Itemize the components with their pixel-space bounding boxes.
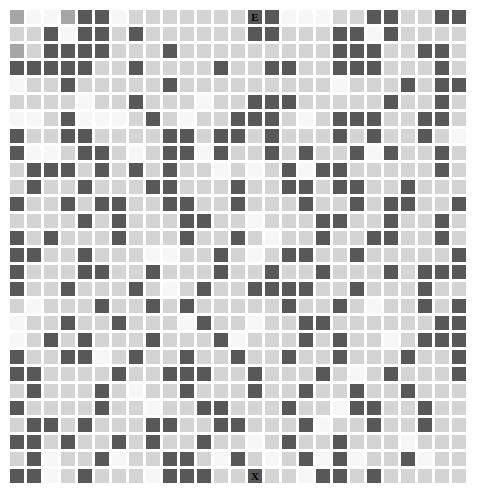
maze-cell	[163, 27, 177, 41]
maze-cell	[299, 282, 313, 296]
maze-cell	[367, 112, 381, 126]
maze-cell	[435, 78, 449, 92]
maze-cell	[214, 61, 228, 75]
maze-cell	[44, 112, 58, 126]
maze-cell	[401, 435, 415, 449]
maze-cell	[384, 367, 398, 381]
maze-cell	[180, 61, 194, 75]
maze-cell	[61, 350, 75, 364]
maze-cell	[367, 78, 381, 92]
maze-cell	[44, 316, 58, 330]
maze-cell	[418, 384, 432, 398]
maze-cell	[231, 333, 245, 347]
maze-cell	[78, 367, 92, 381]
maze-cell	[214, 265, 228, 279]
maze-cell	[129, 367, 143, 381]
maze-cell	[333, 435, 347, 449]
maze-cell	[95, 129, 109, 143]
maze-cell	[435, 350, 449, 364]
maze-cell	[78, 95, 92, 109]
maze-cell	[248, 384, 262, 398]
maze-cell	[27, 197, 41, 211]
maze-cell	[95, 452, 109, 466]
maze-cell	[384, 299, 398, 313]
maze-cell	[418, 78, 432, 92]
maze-cell	[231, 418, 245, 432]
maze-cell	[61, 418, 75, 432]
maze-cell	[163, 418, 177, 432]
maze-cell	[27, 10, 41, 24]
maze-cell	[418, 214, 432, 228]
maze-cell	[418, 401, 432, 415]
maze-cell	[146, 299, 160, 313]
maze-cell	[401, 112, 415, 126]
maze-cell	[435, 452, 449, 466]
maze-cell	[452, 401, 466, 415]
maze-cell	[435, 367, 449, 381]
maze-cell	[197, 350, 211, 364]
maze-cell	[95, 350, 109, 364]
maze-cell	[95, 231, 109, 245]
maze-cell	[299, 350, 313, 364]
maze-cell	[435, 418, 449, 432]
maze-cell	[316, 10, 330, 24]
maze-cell	[61, 265, 75, 279]
maze-cell-exit[interactable]: X	[248, 469, 262, 483]
maze-cell	[10, 44, 24, 58]
maze-cell	[95, 469, 109, 483]
maze-cell	[163, 197, 177, 211]
maze-cell	[316, 367, 330, 381]
maze-cell	[27, 248, 41, 262]
maze-cell	[112, 350, 126, 364]
maze-cell	[112, 180, 126, 194]
maze-cell	[129, 248, 143, 262]
maze-cell	[265, 78, 279, 92]
maze-cell	[95, 61, 109, 75]
maze-cell	[384, 452, 398, 466]
maze-cell	[384, 435, 398, 449]
maze-cell	[435, 44, 449, 58]
maze-cell	[282, 231, 296, 245]
maze-cell	[299, 248, 313, 262]
maze-cell	[27, 44, 41, 58]
maze-cell	[197, 316, 211, 330]
maze-cell	[61, 112, 75, 126]
maze-cell	[180, 112, 194, 126]
maze-cell	[44, 44, 58, 58]
maze-cell	[316, 129, 330, 143]
maze-cell	[61, 316, 75, 330]
maze-cell	[367, 367, 381, 381]
maze-cell-entrance[interactable]: E	[248, 10, 262, 24]
maze-cell	[367, 350, 381, 364]
maze-cell	[163, 350, 177, 364]
maze-cell	[27, 452, 41, 466]
maze-cell	[418, 197, 432, 211]
maze-cell	[299, 418, 313, 432]
maze-cell	[452, 78, 466, 92]
maze-cell	[146, 163, 160, 177]
maze-cell	[401, 163, 415, 177]
maze-cell	[282, 95, 296, 109]
maze-cell	[231, 435, 245, 449]
maze-cell	[78, 384, 92, 398]
maze-cell	[129, 214, 143, 228]
maze-cell	[350, 384, 364, 398]
maze-cell	[197, 197, 211, 211]
maze-cell	[418, 61, 432, 75]
maze-cell	[146, 10, 160, 24]
maze-cell	[95, 316, 109, 330]
maze-cell	[61, 197, 75, 211]
maze-cell	[248, 146, 262, 160]
exit-marker-label: X	[248, 469, 262, 483]
maze-cell	[265, 401, 279, 415]
maze-cell	[180, 333, 194, 347]
maze-cell	[10, 180, 24, 194]
maze-cell	[112, 248, 126, 262]
maze-cell	[27, 350, 41, 364]
maze-cell	[350, 265, 364, 279]
maze-cell	[78, 350, 92, 364]
maze-cell	[44, 78, 58, 92]
maze-cell	[248, 299, 262, 313]
maze-cell	[231, 44, 245, 58]
maze-cell	[146, 44, 160, 58]
